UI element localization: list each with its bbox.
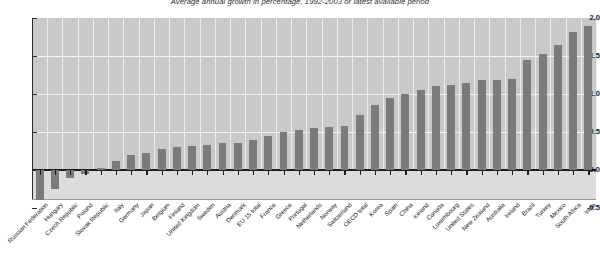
bar[interactable] [569, 32, 577, 170]
x-axis-tick-label: Ireland [503, 201, 521, 219]
x-axis-tick [162, 170, 163, 175]
x-axis-tick [253, 170, 254, 175]
bar[interactable] [508, 79, 516, 170]
x-axis-tick [223, 170, 224, 175]
bar[interactable] [401, 94, 409, 170]
x-axis-tick [360, 170, 361, 175]
x-axis-tick [116, 170, 117, 175]
x-axis-tick [497, 170, 498, 175]
x-axis-tick [101, 170, 102, 175]
x-axis-tick [482, 170, 483, 175]
x-axis-tick [329, 170, 330, 175]
x-axis-tick-label: Korea [367, 201, 384, 218]
bar[interactable] [203, 145, 211, 170]
x-axis-tick [512, 170, 513, 175]
x-axis-tick [573, 170, 574, 175]
x-axis-tick [390, 170, 391, 175]
bar[interactable] [371, 105, 379, 170]
x-axis-tick-label: Russian Federation [6, 201, 49, 244]
bar[interactable] [127, 155, 135, 170]
bar-series [32, 18, 596, 200]
x-axis-tick [192, 170, 193, 175]
bar[interactable] [249, 140, 257, 170]
x-axis-tick [314, 170, 315, 175]
bar[interactable] [523, 60, 531, 170]
bar[interactable] [341, 126, 349, 170]
x-axis-tick [238, 170, 239, 175]
x-axis-tick [466, 170, 467, 175]
x-axis-tick [40, 170, 41, 175]
x-axis-tick-label: Spain [383, 201, 399, 217]
x-axis-tick [543, 170, 544, 175]
x-axis-tick [146, 170, 147, 175]
x-axis-labels: Russian FederationHungaryCzech RepublicP… [32, 201, 600, 267]
bar[interactable] [295, 130, 303, 170]
bar[interactable] [264, 136, 272, 170]
bar[interactable] [478, 80, 486, 170]
bar[interactable] [310, 128, 318, 170]
bar[interactable] [386, 98, 394, 170]
x-axis-tick [436, 170, 437, 175]
bar[interactable] [584, 26, 592, 170]
x-axis-tick [85, 170, 86, 175]
bar[interactable] [356, 115, 364, 170]
bar[interactable] [280, 132, 288, 170]
chart-title: Average annual growth in percentage, 199… [0, 0, 600, 6]
bar[interactable] [325, 127, 333, 170]
bar[interactable] [173, 147, 181, 170]
bar[interactable] [234, 143, 242, 170]
bar[interactable] [493, 80, 501, 170]
bar[interactable] [539, 54, 547, 170]
bar[interactable] [219, 143, 227, 170]
chart-container: Average annual growth in percentage, 199… [0, 0, 600, 267]
bar[interactable] [188, 146, 196, 170]
x-axis-tick [131, 170, 132, 175]
x-axis-tick [207, 170, 208, 175]
bar[interactable] [432, 86, 440, 170]
x-axis-tick [268, 170, 269, 175]
x-axis-tick [344, 170, 345, 175]
x-axis-tick [375, 170, 376, 175]
bar[interactable] [158, 149, 166, 170]
x-axis-tick [70, 170, 71, 175]
x-axis-tick [299, 170, 300, 175]
x-axis-tick [527, 170, 528, 175]
bar[interactable] [112, 161, 120, 170]
x-axis-tick [405, 170, 406, 175]
x-axis-tick [421, 170, 422, 175]
x-axis-tick [177, 170, 178, 175]
bar[interactable] [462, 83, 470, 170]
x-axis-tick [451, 170, 452, 175]
bar[interactable] [447, 85, 455, 170]
x-axis-tick [588, 170, 589, 175]
x-axis-tick-label: India [583, 201, 597, 215]
x-axis-tick [558, 170, 559, 175]
x-axis-tick [55, 170, 56, 175]
bar[interactable] [142, 153, 150, 170]
bar[interactable] [417, 90, 425, 170]
x-axis-tick [284, 170, 285, 175]
bar[interactable] [554, 45, 562, 170]
